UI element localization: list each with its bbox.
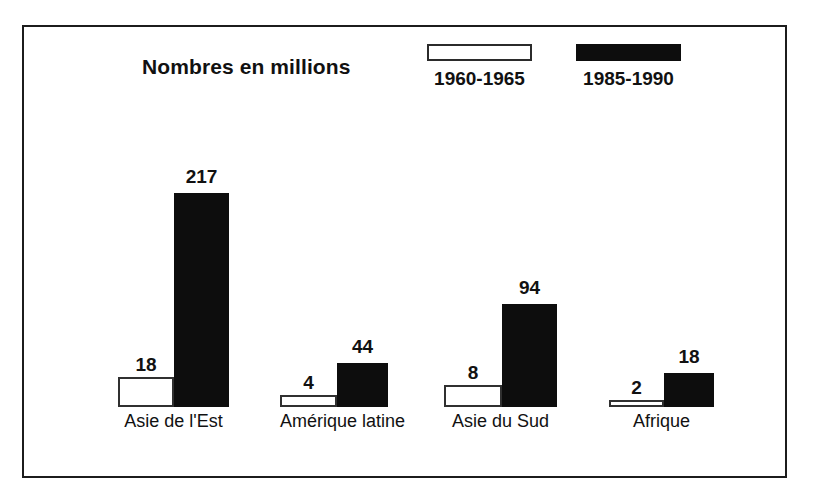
category-label: Asie de l'Est — [118, 411, 229, 432]
bar-value-label: 94 — [519, 277, 540, 299]
bar-group: 4 44 Amérique latine — [280, 177, 405, 432]
plot-area: 18 217 Asie de l'Est 4 44 Amérique latin… — [24, 27, 785, 476]
bars-row: 8 94 — [444, 177, 557, 407]
bar-group: 18 217 Asie de l'Est — [118, 177, 229, 432]
category-label: Asie du Sud — [444, 411, 557, 432]
bar-open: 8 — [444, 385, 502, 407]
bar-value-label: 4 — [303, 372, 314, 394]
bar-group: 2 18 Afrique — [609, 177, 714, 432]
bar-value-label: 44 — [352, 336, 373, 358]
category-label: Afrique — [609, 411, 714, 432]
bar-value-label: 18 — [135, 354, 156, 376]
bar-value-label: 8 — [468, 362, 479, 384]
bar-group: 8 94 Asie du Sud — [444, 177, 557, 432]
bar-open: 2 — [609, 400, 664, 407]
bar-solid: 44 — [337, 363, 388, 407]
bar-open: 4 — [280, 395, 337, 407]
chart-frame: Nombres en millions 1960-1965 1985-1990 … — [22, 25, 787, 478]
bar-open: 18 — [118, 377, 174, 407]
bars-row: 18 217 — [118, 177, 229, 407]
bar-solid: 94 — [502, 304, 557, 407]
bar-value-label: 217 — [186, 166, 218, 188]
bar-value-label: 18 — [678, 346, 699, 368]
bar-solid: 217 — [174, 193, 229, 407]
category-label: Amérique latine — [280, 411, 405, 432]
bars-row: 2 18 — [609, 177, 714, 407]
bars-row: 4 44 — [280, 177, 405, 407]
bar-value-label: 2 — [631, 377, 642, 399]
bar-solid: 18 — [664, 373, 714, 407]
